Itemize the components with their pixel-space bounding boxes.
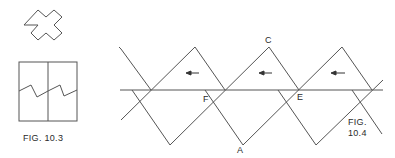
descending-line	[205, 90, 243, 145]
left-arrow-icon	[186, 71, 199, 75]
left-arrow-icon	[259, 71, 272, 75]
rising-line	[243, 47, 342, 145]
fig-10-3-caption: FIG. 10.3	[23, 133, 63, 143]
cross-shape	[24, 10, 62, 40]
point-label-e: E	[297, 92, 303, 102]
point-label-a: A	[237, 145, 243, 155]
descending-line	[132, 90, 170, 145]
descending-line	[119, 47, 151, 90]
rising-line	[121, 47, 195, 120]
left-arrow-icon	[331, 71, 345, 75]
point-label-c: C	[265, 35, 272, 45]
fig-10-4-caption-line1: FIG.	[348, 117, 367, 127]
descending-line	[195, 47, 225, 90]
fig-10-4-caption-line2: 10.4	[348, 128, 367, 138]
descending-line	[342, 47, 372, 90]
descending-line	[269, 47, 299, 90]
rising-line	[170, 47, 269, 145]
point-label-f: F	[203, 94, 209, 104]
